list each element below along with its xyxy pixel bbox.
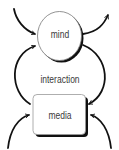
media-label: media xyxy=(45,110,76,122)
arrow-in-bottom-right xyxy=(91,115,111,148)
arrow-loop-right-mind-to-media xyxy=(83,45,105,104)
arrow-in-bottom-left xyxy=(8,115,29,148)
interaction-label: interaction xyxy=(36,74,84,86)
arrow-out-top-right xyxy=(83,15,108,34)
arrow-loop-left-media-to-mind xyxy=(15,46,35,104)
arrow-in-top-left xyxy=(14,9,35,34)
mind-label: mind xyxy=(46,29,73,41)
